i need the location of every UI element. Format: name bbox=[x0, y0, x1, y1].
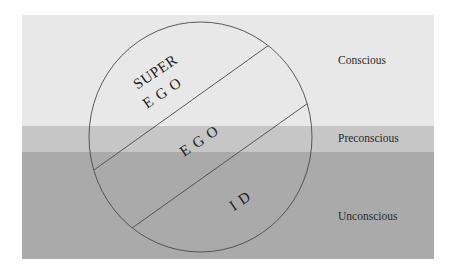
psyche-diagram: SUPER E G O E G O I D Conscious Preconsc… bbox=[0, 0, 455, 275]
band-conscious bbox=[22, 15, 434, 126]
level-label-unconscious: Unconscious bbox=[338, 210, 397, 222]
level-label-preconscious: Preconscious bbox=[338, 132, 399, 144]
band-unconscious bbox=[22, 152, 434, 259]
level-label-conscious: Conscious bbox=[338, 54, 386, 66]
